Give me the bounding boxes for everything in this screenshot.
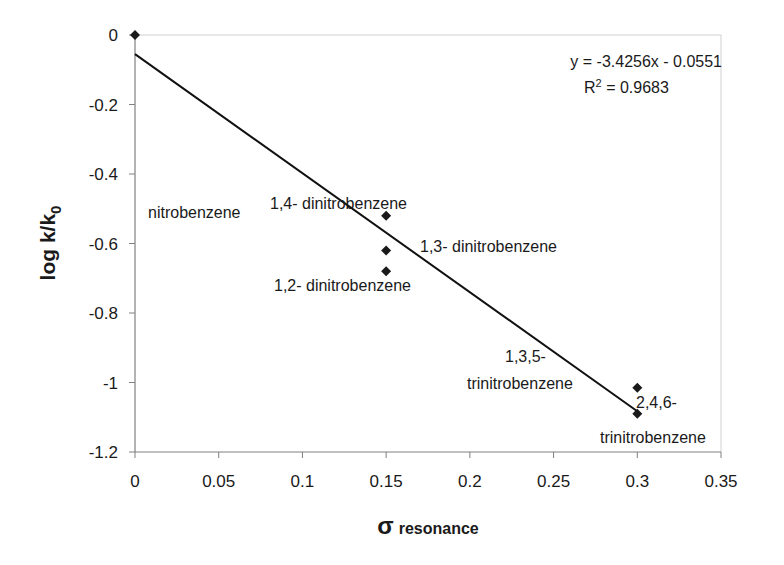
- x-axis-ticks: 00.050.10.150.20.250.30.35: [130, 452, 737, 491]
- x-tick-label: 0.1: [291, 472, 315, 491]
- x-tick-label: 0.25: [537, 472, 570, 491]
- regression-line: [135, 54, 637, 411]
- diamond-marker: [632, 383, 642, 393]
- x-tick-label: 0.15: [370, 472, 403, 491]
- point-label: trinitrobenzene: [467, 375, 573, 392]
- trendline: [135, 54, 637, 411]
- y-tick-label: -1.2: [89, 443, 118, 462]
- x-axis-title: σresonance: [377, 512, 479, 539]
- point-label: 2,4,6-: [636, 394, 677, 411]
- x-tick-label: 0.3: [625, 472, 649, 491]
- y-tick-label: -0.8: [89, 304, 118, 323]
- diamond-marker: [381, 266, 391, 276]
- chart: 00.050.10.150.20.250.30.35 0-0.2-0.4-0.6…: [0, 0, 784, 565]
- y-axis-title: log k/k0: [36, 206, 64, 281]
- y-axis-ticks: 0-0.2-0.4-0.6-0.8-1-1.2: [89, 26, 135, 462]
- x-tick-label: 0: [130, 472, 139, 491]
- r-squared-label: R2 = 0.9683: [584, 77, 669, 96]
- point-label: nitrobenzene: [148, 204, 241, 221]
- diamond-marker: [130, 30, 140, 40]
- y-tick-label: -0.2: [89, 96, 118, 115]
- y-tick-label: -1: [103, 374, 118, 393]
- x-tick-label: 0.35: [704, 472, 737, 491]
- trendline-equation: y = -3.4256x - 0.0551: [570, 53, 722, 70]
- diamond-marker: [381, 211, 391, 221]
- point-label: 1,2- dinitrobenzene: [274, 277, 411, 294]
- y-tick-label: -0.6: [89, 235, 118, 254]
- y-tick-label: 0: [109, 26, 118, 45]
- diamond-marker: [381, 245, 391, 255]
- x-tick-label: 0.05: [202, 472, 235, 491]
- point-label: trinitrobenzene: [600, 429, 706, 446]
- point-labels: nitrobenzene1,4- dinitrobenzene1,3- dini…: [148, 195, 706, 446]
- x-tick-label: 0.2: [458, 472, 482, 491]
- y-tick-label: -0.4: [89, 165, 118, 184]
- point-label: 1,4- dinitrobenzene: [270, 195, 407, 212]
- point-label: 1,3,5-: [505, 348, 546, 365]
- point-label: 1,3- dinitrobenzene: [420, 238, 557, 255]
